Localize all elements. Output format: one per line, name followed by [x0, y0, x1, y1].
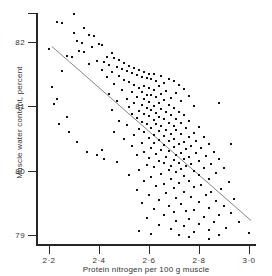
scatter-point [146, 107, 148, 109]
scatter-point [143, 151, 145, 153]
scatter-point [165, 111, 167, 113]
scatter-point [111, 71, 113, 73]
scatter-point [188, 120, 190, 122]
scatter-point [153, 166, 155, 168]
scatter-points-layer [0, 0, 272, 276]
scatter-point [155, 96, 157, 98]
scatter-point [223, 167, 225, 169]
scatter-point [180, 100, 182, 102]
scatter-point [160, 108, 162, 110]
scatter-point [153, 208, 155, 210]
scatter-point [230, 143, 232, 145]
scatter-point [150, 233, 152, 235]
scatter-point [150, 127, 152, 129]
scatter-point [158, 85, 160, 87]
scatter-point [153, 89, 155, 91]
scatter-point [218, 214, 220, 216]
scatter-point [200, 184, 202, 186]
scatter-point [160, 125, 162, 127]
scatter-point [61, 70, 63, 72]
scatter-point [78, 50, 80, 52]
scatter-point [113, 57, 115, 59]
scatter-point [138, 230, 140, 232]
scatter-point [51, 86, 53, 88]
scatter-point [178, 111, 180, 113]
scatter-point [205, 194, 207, 196]
scatter-point [158, 199, 160, 201]
scatter-point [183, 191, 185, 193]
y-axis-spine [36, 13, 38, 246]
scatter-point [93, 35, 95, 37]
scatter-point [148, 115, 150, 117]
scatter-point [155, 185, 157, 187]
scatter-point [131, 145, 133, 147]
scatter-point [96, 60, 98, 62]
scatter-point [148, 87, 150, 89]
scatter-point [185, 165, 187, 167]
scatter-point [183, 158, 185, 160]
scatter-point [83, 51, 85, 53]
scatter-point [138, 128, 140, 130]
y-tick-mark [28, 106, 37, 107]
scatter-point [195, 140, 197, 142]
scatter-point [158, 116, 160, 118]
scatter-point [158, 130, 160, 132]
scatter-point [203, 167, 205, 169]
scatter-point [128, 65, 130, 67]
scatter-point [66, 116, 68, 118]
scatter-point [141, 202, 143, 204]
scatter-point [195, 152, 197, 154]
scatter-point [173, 80, 175, 82]
scatter-point [208, 238, 210, 240]
scatter-point [141, 91, 143, 93]
scatter-point [160, 93, 162, 95]
scatter-point [146, 164, 148, 166]
scatter-point [180, 152, 182, 154]
scatter-point [108, 93, 110, 95]
scatter-point [218, 234, 220, 236]
scatter-point [150, 109, 152, 111]
scatter-point [56, 98, 58, 100]
scatter-point [143, 98, 145, 100]
scatter-point [148, 137, 150, 139]
scatter-point [158, 160, 160, 162]
scatter-point [163, 144, 165, 146]
scatter-point [248, 232, 250, 234]
scatter-point [141, 121, 143, 123]
scatter-point [178, 182, 180, 184]
scatter-point [143, 85, 145, 87]
x-axis-title: Protein nitrogen per 100 g muscle [36, 265, 256, 274]
scatter-point [180, 203, 182, 205]
scatter-point [198, 201, 200, 203]
scatter-point [143, 71, 145, 73]
scatter-point [146, 77, 148, 79]
scatter-point [61, 22, 63, 24]
scatter-point [170, 133, 172, 135]
scatter-point [173, 107, 175, 109]
scatter-point [198, 160, 200, 162]
scatter-point [146, 217, 148, 219]
scatter-point [218, 102, 220, 104]
scatter-point [133, 67, 135, 69]
scatter-point [141, 142, 143, 144]
scatter-point [158, 139, 160, 141]
scatter-point [160, 149, 162, 151]
scatter-point [180, 122, 182, 124]
scatter-point [136, 96, 138, 98]
scatter-point [76, 40, 78, 42]
scatter-point [183, 141, 185, 143]
scatter-point [148, 101, 150, 103]
scatter-point [158, 102, 160, 104]
scatter-point [103, 158, 105, 160]
scatter-point [133, 102, 135, 104]
scatter-point [208, 178, 210, 180]
scatter-point [185, 148, 187, 150]
scatter-point [168, 104, 170, 106]
scatter-point [163, 162, 165, 164]
scatter-point [153, 142, 155, 144]
scatter-point [190, 196, 192, 198]
x-tick-mark [199, 245, 200, 254]
scatter-point [68, 131, 70, 133]
scatter-point [168, 140, 170, 142]
scatter-point [146, 94, 148, 96]
